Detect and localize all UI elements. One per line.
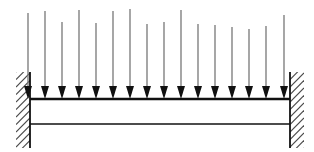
diagram-background: [0, 0, 314, 152]
beam-load-diagram: [0, 0, 314, 152]
diagram-canvas: [0, 0, 314, 152]
